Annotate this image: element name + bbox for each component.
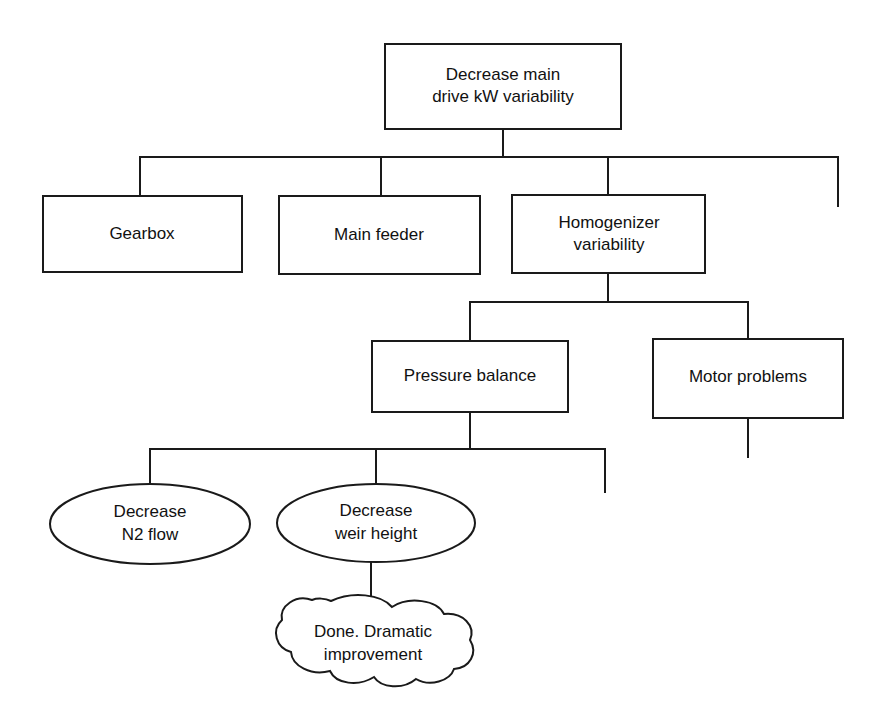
- node-homogenizer-label-line2: variability: [574, 235, 645, 254]
- diagram-svg: Decrease main drive kW variability Gearb…: [0, 0, 887, 716]
- node-main-feeder[interactable]: Main feeder: [279, 196, 480, 274]
- diagram-canvas: Decrease main drive kW variability Gearb…: [0, 0, 887, 716]
- node-cloud-label-line1: Done. Dramatic: [314, 622, 433, 641]
- node-motor-problems-label: Motor problems: [689, 367, 807, 386]
- connector-group-homogenizer-to-level2: [470, 273, 748, 341]
- node-root-label-line2: drive kW variability: [432, 87, 574, 106]
- node-gearbox-label: Gearbox: [109, 224, 175, 243]
- node-decrease-n2-flow[interactable]: Decrease N2 flow: [50, 484, 250, 564]
- node-decrease-weir-height-label-line1: Decrease: [340, 501, 413, 520]
- node-pressure-balance[interactable]: Pressure balance: [372, 341, 568, 412]
- node-decrease-n2-flow-ellipse[interactable]: [50, 484, 250, 564]
- connector-group-pressure-to-level3: [150, 412, 605, 492]
- node-cloud-label-line2: improvement: [324, 645, 423, 664]
- node-pressure-balance-label: Pressure balance: [404, 366, 536, 385]
- node-homogenizer-variability[interactable]: Homogenizer variability: [512, 195, 705, 273]
- node-decrease-n2-flow-label-line1: Decrease: [114, 502, 187, 521]
- node-gearbox[interactable]: Gearbox: [43, 196, 242, 272]
- node-motor-problems[interactable]: Motor problems: [653, 339, 843, 418]
- node-decrease-weir-height-ellipse[interactable]: [277, 484, 475, 562]
- node-root[interactable]: Decrease main drive kW variability: [385, 44, 621, 129]
- node-homogenizer-label-line1: Homogenizer: [558, 213, 659, 232]
- node-decrease-weir-height-label-line2: weir height: [334, 524, 417, 543]
- node-decrease-n2-flow-label-line2: N2 flow: [122, 525, 179, 544]
- node-done-dramatic-improvement[interactable]: Done. Dramatic improvement: [276, 595, 473, 686]
- node-root-label-line1: Decrease main: [446, 65, 560, 84]
- connector-group-root-to-level1: [140, 129, 838, 206]
- node-homogenizer-rect[interactable]: [512, 195, 705, 273]
- node-main-feeder-label: Main feeder: [334, 225, 424, 244]
- node-decrease-weir-height[interactable]: Decrease weir height: [277, 484, 475, 562]
